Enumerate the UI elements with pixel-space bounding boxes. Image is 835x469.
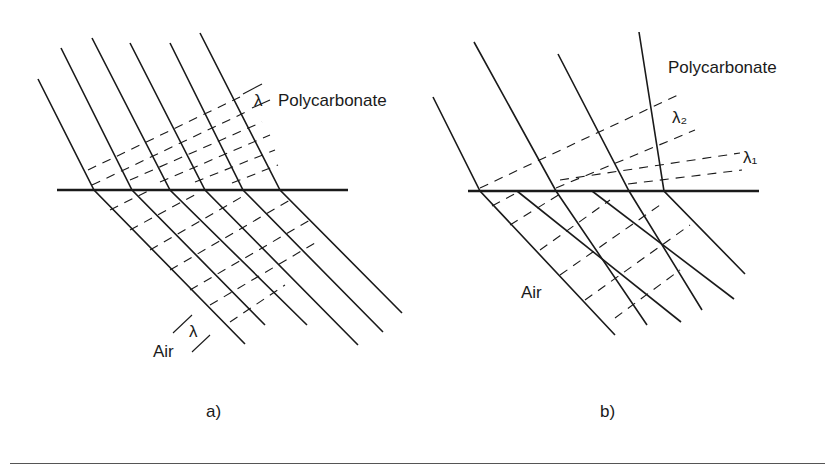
wavefronts-air xyxy=(110,190,320,322)
panel-a: λ Polycarbonate λ Air a) xyxy=(38,33,402,421)
ray xyxy=(592,191,734,299)
refraction-diagram: λ Polycarbonate λ Air a) xyxy=(0,0,835,469)
ray xyxy=(474,42,647,325)
ray xyxy=(38,79,245,344)
lambda-label-top: λ xyxy=(254,91,263,110)
polycarbonate-label: Polycarbonate xyxy=(278,91,387,110)
polycarbonate-label: Polycarbonate xyxy=(668,58,777,77)
ray xyxy=(558,54,702,310)
ray xyxy=(130,43,358,345)
bottom-rule xyxy=(10,463,825,464)
caption-b: b) xyxy=(600,402,615,421)
air-label: Air xyxy=(153,342,174,361)
wavefronts-polycarbonate xyxy=(480,94,742,188)
lambda-2-label: λ₂ xyxy=(672,108,687,127)
ray xyxy=(170,43,383,332)
caption-a: a) xyxy=(206,402,221,421)
panel-b: Polycarbonate λ₂ λ₁ Air b) xyxy=(433,32,777,421)
air-label: Air xyxy=(521,283,542,302)
ray xyxy=(92,38,307,325)
lambda-1-label: λ₁ xyxy=(743,148,758,167)
wavefronts-polycarbonate xyxy=(88,97,278,185)
ray xyxy=(200,33,402,313)
lambda-label-bottom: λ xyxy=(189,322,198,341)
